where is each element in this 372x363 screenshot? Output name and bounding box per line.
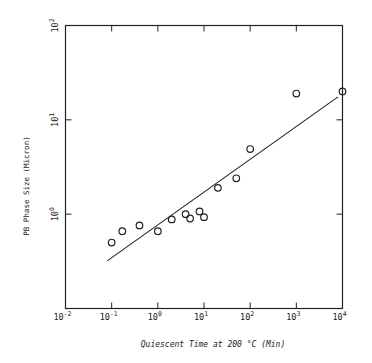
data-point-marker [155, 228, 162, 235]
data-point-marker [215, 185, 222, 192]
data-point-marker [293, 90, 300, 97]
x-tick-label: 103 [286, 310, 300, 322]
x-tick-label: 104 [332, 310, 346, 322]
x-tick-label: 10-2 [53, 310, 71, 322]
x-tick-label: 102 [240, 310, 254, 322]
chart: 10-210-1100101102103104 100101102 Quiesc… [0, 0, 372, 363]
y-axis-title: PB Phase Size (Micron) [22, 136, 31, 235]
plot-frame [66, 26, 343, 309]
fit-line [107, 97, 338, 261]
data-points [108, 88, 345, 246]
data-point-marker [233, 175, 240, 182]
plot-border [66, 26, 343, 309]
x-tick-label: 10-1 [100, 310, 118, 322]
data-point-marker [247, 146, 254, 153]
y-tick-label: 100 [48, 207, 60, 221]
y-tick-label: 102 [48, 18, 60, 32]
x-axis-ticks: 10-210-1100101102103104 [53, 26, 346, 322]
data-point-marker [201, 214, 208, 221]
data-point-marker [108, 239, 115, 246]
data-point-marker [119, 228, 126, 235]
data-point-marker [196, 208, 203, 215]
x-tick-label: 100 [148, 310, 162, 322]
x-axis-title: Quiescent Time at 200 °C (Min) [141, 340, 286, 349]
x-tick-label: 101 [194, 310, 208, 322]
y-tick-label: 101 [48, 113, 60, 127]
data-point-marker [168, 216, 175, 223]
y-axis-ticks: 100101102 [48, 18, 343, 221]
regression-line [107, 97, 338, 261]
data-point-marker [187, 215, 194, 222]
data-point-marker [136, 222, 143, 229]
